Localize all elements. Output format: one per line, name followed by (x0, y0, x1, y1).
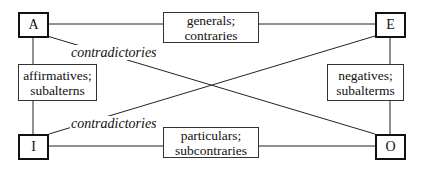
relation-top-box: generals; contraries (163, 12, 259, 43)
relation-bottom-line2: subcontraries (175, 143, 247, 158)
relation-left-box: affirmatives; subalterns (18, 64, 97, 101)
square-of-opposition-diagram: generals; contraries particulars; subcon… (0, 0, 423, 169)
relation-right-box: negatives; subalterms (327, 64, 404, 101)
relation-bottom-line1: particulars; (181, 128, 242, 143)
corner-i: I (18, 134, 49, 160)
corner-e: E (375, 12, 406, 38)
corner-o: O (375, 134, 406, 160)
relation-right-line2: subalterms (336, 83, 395, 98)
corner-e-label: E (386, 17, 395, 33)
corner-a: A (18, 12, 49, 38)
relation-left-line2: subalterns (30, 83, 85, 98)
relation-bottom-box: particulars; subcontraries (163, 127, 259, 158)
corner-o-label: O (385, 139, 395, 155)
relation-right-line1: negatives; (338, 68, 393, 83)
corner-a-label: A (28, 17, 38, 33)
relation-top-line2: contraries (184, 28, 237, 43)
relation-left-line1: affirmatives; (23, 68, 92, 83)
contradictories-top-label: contradictories (70, 45, 158, 60)
relation-top-line1: generals; (187, 13, 236, 28)
contradictories-bottom-label: contradictories (70, 116, 158, 131)
corner-i-label: I (31, 139, 36, 155)
